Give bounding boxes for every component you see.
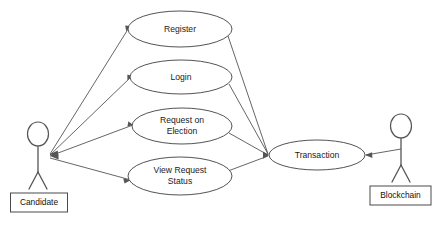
blockchain-label: Blockchain bbox=[380, 190, 421, 200]
blockchain-head-icon bbox=[391, 114, 412, 138]
arrowhead-transaction-right bbox=[365, 152, 372, 158]
use-case-request-on-election-label-line2: Election bbox=[167, 126, 198, 136]
use-case-nodes: Register Login Request on Election View … bbox=[128, 11, 365, 195]
use-case-register[interactable]: Register bbox=[128, 11, 232, 47]
edge-line-candidate-request-on-election bbox=[50, 125, 133, 156]
use-case-login[interactable]: Login bbox=[130, 60, 232, 94]
edge-candidate-register[interactable] bbox=[50, 26, 130, 157]
actor-blockchain[interactable]: Blockchain bbox=[370, 114, 431, 205]
use-case-register-label: Register bbox=[164, 24, 196, 34]
actor-candidate[interactable]: Candidate bbox=[11, 122, 68, 212]
candidate-left-leg bbox=[29, 172, 38, 189]
use-case-diagram: Register Login Request on Election View … bbox=[0, 0, 447, 225]
use-case-request-on-election-label-line1: Request on bbox=[160, 115, 204, 125]
use-case-view-request-status-label-line2: Status bbox=[168, 176, 192, 186]
blockchain-right-leg bbox=[401, 165, 410, 182]
use-case-view-request-status-label-line1: View Request bbox=[154, 165, 207, 175]
use-case-transaction-label: Transaction bbox=[295, 150, 340, 160]
use-case-request-on-election[interactable]: Request on Election bbox=[132, 108, 232, 144]
edge-view-request-status-transaction[interactable] bbox=[228, 156, 268, 171]
candidate-head-icon bbox=[28, 122, 49, 146]
use-case-view-request-status[interactable]: View Request Status bbox=[128, 157, 232, 195]
use-case-transaction[interactable]: Transaction bbox=[269, 140, 365, 170]
blockchain-left-leg bbox=[392, 165, 401, 182]
use-case-diagram-canvas: Register Login Request on Election View … bbox=[0, 0, 447, 225]
edge-line-candidate-view-request-status bbox=[50, 158, 131, 180]
edge-blockchain-transaction[interactable] bbox=[365, 149, 401, 158]
edge-candidate-view-request-status[interactable] bbox=[50, 158, 131, 184]
candidate-right-leg bbox=[38, 172, 47, 189]
candidate-label: Candidate bbox=[20, 197, 59, 207]
edge-line-view-request-status-transaction bbox=[228, 156, 268, 171]
edge-candidate-request-on-election[interactable] bbox=[50, 121, 133, 159]
edge-candidate-login[interactable] bbox=[50, 74, 132, 157]
arrowhead-transaction-left bbox=[263, 152, 269, 159]
use-case-login-label: Login bbox=[170, 72, 191, 82]
